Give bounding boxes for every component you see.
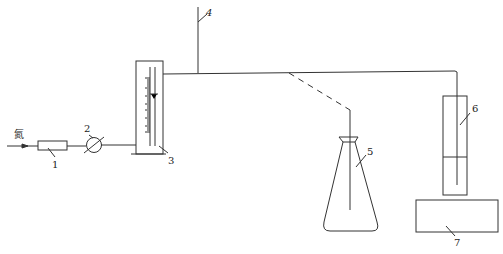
tube-body [443, 96, 467, 195]
label-1: 1 [52, 159, 58, 170]
arrow-icon [22, 144, 28, 148]
inlet-label: 氮 [14, 128, 24, 140]
component-7: 7 [416, 200, 498, 248]
label-2: 2 [84, 123, 90, 134]
leader-1 [48, 148, 55, 157]
component-6: 6 [443, 96, 478, 195]
base-box [416, 200, 498, 232]
component-3: 3 [131, 61, 174, 166]
component-2: 2 [84, 123, 104, 153]
scale-ticks [145, 78, 150, 132]
leader-2 [89, 135, 93, 138]
leader-6 [460, 113, 470, 125]
level-marker-icon [151, 94, 157, 99]
main-pipe [163, 71, 457, 185]
component-5: 5 [324, 137, 378, 231]
label-5: 5 [367, 146, 373, 157]
label-7: 7 [454, 237, 460, 248]
dashed-branch [289, 73, 350, 110]
component-1: 1 [38, 141, 67, 170]
inlet: 氮 [7, 128, 38, 148]
label-4: 4 [205, 7, 212, 18]
label-6: 6 [472, 103, 478, 114]
component-4: 4 [198, 7, 212, 73]
apparatus-diagram: 氮 1 2 [0, 0, 503, 254]
label-3: 3 [168, 155, 174, 166]
component-1-body [38, 141, 67, 150]
leader-7 [446, 226, 455, 236]
